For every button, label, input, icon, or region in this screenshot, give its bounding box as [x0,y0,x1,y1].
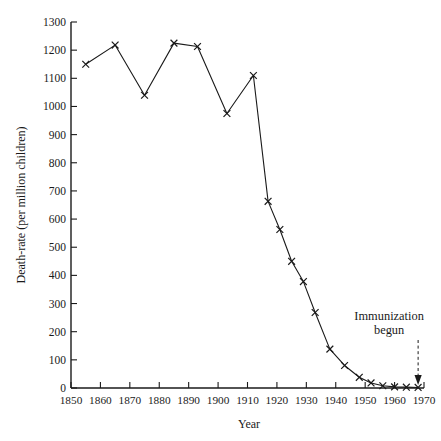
data-point-marker [341,362,348,369]
x-tick-label: 1860 [89,394,112,406]
y-tick-label: 1000 [43,100,66,112]
data-point-marker [288,258,295,265]
y-axis: 0100200300400500600700800900100011001200… [43,16,77,394]
annotation-line-2: begun [374,323,404,337]
data-point-marker [82,61,89,68]
x-tick-label: 1890 [177,394,200,406]
data-point-marker [300,278,307,285]
x-tick-labels: 1850186018701880189019001910192019301940… [60,394,436,406]
data-point-marker [224,110,231,117]
x-tick-label: 1950 [354,394,377,406]
data-point-marker [356,374,363,381]
y-tick-labels: 0100200300400500600700800900100011001200… [43,16,66,394]
y-tick-label: 1100 [43,72,66,84]
y-tick-label: 600 [49,213,67,225]
x-tick-label: 1940 [324,394,347,406]
y-tick-label: 900 [49,129,67,141]
y-tick-label: 1200 [43,44,66,56]
x-tick-label: 1960 [383,394,406,406]
data-point-marker [276,226,283,233]
x-tick-label: 1870 [119,394,142,406]
annotation-immunization-begun: Immunization begun [354,309,424,385]
y-tick-label: 100 [49,354,67,366]
x-tick-label: 1880 [148,394,171,406]
x-tick-label: 1930 [295,394,318,406]
data-point-marker [368,380,375,387]
y-tick-label: 200 [49,326,67,338]
x-tick-label: 1850 [60,394,83,406]
y-tick-label: 500 [49,241,67,253]
annotation-arrow-head [415,375,422,385]
data-series [82,40,421,391]
x-tick-label: 1900 [207,394,230,406]
y-tick-label: 700 [49,185,67,197]
line-chart-canvas: 0100200300400500600700800900100011001200… [0,0,441,441]
chart-figure: 0100200300400500600700800900100011001200… [0,0,441,441]
x-tick-label: 1920 [266,394,289,406]
series-markers [82,40,421,391]
data-point-marker [326,346,333,353]
annotation-line-1: Immunization [354,309,424,323]
y-tick-label: 800 [49,157,67,169]
x-axis-title: Year [238,417,260,431]
x-tick-label: 1910 [236,394,259,406]
x-axis: 1850186018701880189019001910192019301940… [60,382,436,406]
data-point-marker [312,309,319,316]
data-point-marker [141,92,148,99]
data-point-marker [112,42,119,49]
y-tick-label: 400 [49,269,67,281]
y-tick-label: 0 [60,382,66,394]
y-tick-marks [71,22,77,388]
x-tick-label: 1970 [413,394,436,406]
y-axis-title: Death-rate (per million children) [14,127,28,284]
series-line-death-rate [86,43,418,387]
y-tick-label: 300 [49,298,67,310]
y-tick-label: 1300 [43,16,66,28]
